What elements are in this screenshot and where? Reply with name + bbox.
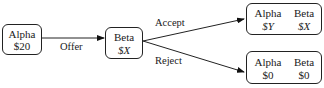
accept-outcome-node: Alpha $Y Beta $X: [246, 3, 322, 35]
beta-node-value: $X: [106, 44, 142, 56]
accept-label: Accept: [155, 17, 185, 28]
alpha-node-value: $20: [3, 40, 41, 52]
reject-beta-value: $0: [289, 69, 319, 81]
beta-node: Beta $X: [105, 27, 143, 59]
accept-beta-label: Beta: [289, 7, 319, 19]
accept-alpha-label: Alpha: [251, 7, 285, 19]
offer-label: Offer: [60, 41, 83, 52]
alpha-node-label: Alpha: [3, 28, 41, 40]
accept-alpha-value: $Y: [251, 20, 285, 32]
reject-outcome-node: Alpha $0 Beta $0: [246, 51, 322, 84]
reject-alpha-value: $0: [251, 69, 285, 81]
alpha-node: Alpha $20: [2, 24, 42, 55]
accept-beta-value: $X: [289, 20, 319, 32]
reject-alpha-label: Alpha: [251, 56, 285, 68]
reject-beta-label: Beta: [289, 56, 319, 68]
beta-node-label: Beta: [106, 31, 142, 43]
reject-label: Reject: [155, 55, 182, 66]
